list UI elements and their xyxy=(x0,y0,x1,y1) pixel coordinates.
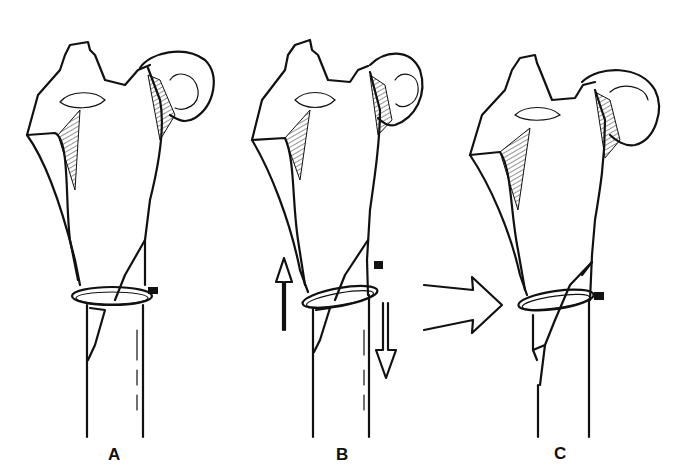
femur-diagram xyxy=(0,0,687,469)
arrow-up-icon xyxy=(276,258,292,330)
arrow-down-icon xyxy=(376,303,396,378)
femur-b xyxy=(252,40,422,437)
arrow-right-icon xyxy=(424,277,502,333)
panel-label-c: C xyxy=(554,444,566,464)
femur-a xyxy=(27,42,214,437)
femur-c xyxy=(470,55,659,437)
panel-label-b: B xyxy=(336,445,348,465)
panel-label-a: A xyxy=(108,445,120,465)
